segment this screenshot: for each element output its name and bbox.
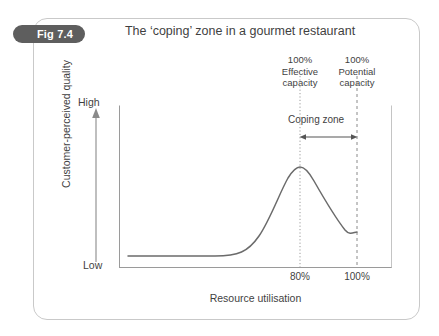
annotation-potential-capacity: 100% Potential capacity: [325, 54, 389, 89]
x-axis-tick-80: 80%: [280, 271, 320, 282]
x-axis-title: Resource utilisation: [119, 292, 392, 304]
chart-title: The ‘coping’ zone in a gourmet restauran…: [95, 24, 385, 38]
y-axis-tick-low: Low: [83, 259, 102, 271]
figure-number-badge: Fig 7.4: [13, 25, 85, 43]
potential-capacity-line1: Potential: [325, 66, 389, 78]
effective-capacity-line2: capacity: [268, 77, 332, 89]
x-axis-tick-100: 100%: [337, 271, 377, 282]
potential-capacity-line2: capacity: [325, 77, 389, 89]
effective-capacity-percent: 100%: [268, 54, 332, 66]
coping-zone-label: Coping zone: [288, 114, 344, 125]
effective-capacity-line1: Effective: [268, 66, 332, 78]
y-axis-tick-high: High: [78, 96, 100, 108]
potential-capacity-percent: 100%: [325, 54, 389, 66]
y-axis-title: Customer-perceived quality: [60, 34, 72, 214]
figure-number-label: Fig 7.4: [13, 25, 85, 43]
plot-area: [119, 105, 392, 268]
annotation-effective-capacity: 100% Effective capacity: [268, 54, 332, 89]
